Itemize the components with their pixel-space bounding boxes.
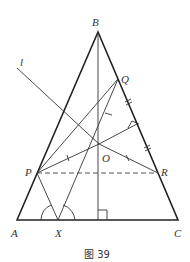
right-angle-foot xyxy=(98,210,107,220)
tick-XQ xyxy=(105,113,112,115)
tick-OR xyxy=(126,155,129,161)
line-l xyxy=(17,68,99,144)
triangle-ABC xyxy=(17,32,178,220)
label-l: l xyxy=(20,56,23,68)
figure-caption: 图 39 xyxy=(84,249,110,260)
label-C: C xyxy=(174,227,182,239)
label-O: O xyxy=(102,152,110,164)
segment-XQ xyxy=(58,79,118,220)
label-X: X xyxy=(54,227,63,239)
angle-arc-left xyxy=(41,205,51,220)
angle-arc-right xyxy=(63,205,75,220)
label-B: B xyxy=(92,16,99,28)
label-A: A xyxy=(10,227,18,239)
label-R: R xyxy=(160,166,168,178)
geometry-figure: B Q P R O A X C l 图 39 xyxy=(0,0,190,262)
segment-O-perp xyxy=(99,124,137,144)
label-Q: Q xyxy=(121,73,129,85)
label-P: P xyxy=(24,166,32,178)
segment-PX xyxy=(37,173,58,220)
